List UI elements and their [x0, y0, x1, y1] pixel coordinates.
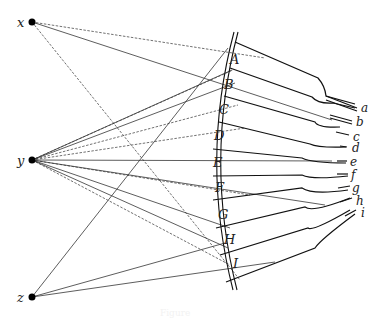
receptor-d: d: [352, 141, 360, 155]
facet-H: H: [223, 232, 236, 247]
facet-I: I: [232, 256, 239, 271]
point-z: [29, 294, 36, 301]
receptor-i: i: [361, 206, 365, 220]
facet-F: F: [214, 180, 225, 195]
receptor-f: f: [350, 168, 358, 182]
facet-labels: A B C D E F G H I: [212, 52, 239, 271]
rays: [32, 22, 332, 297]
facet-G: G: [218, 207, 228, 222]
figure-caption: Figure: [160, 308, 190, 318]
receptor-a: a: [361, 101, 368, 115]
receptor-labels: a b c d e f g h i: [350, 101, 368, 220]
source-points: x y z: [16, 15, 36, 305]
facet-D: D: [213, 128, 225, 143]
receptor-b: b: [356, 115, 364, 129]
facet-E: E: [212, 155, 223, 170]
label-y: y: [16, 153, 25, 168]
facet-C: C: [219, 102, 229, 117]
eye-diagram: x y z A B C D E F G H I a b c d e f g h …: [0, 0, 380, 319]
facet-B: B: [223, 77, 234, 92]
facet-A: A: [229, 52, 239, 67]
label-x: x: [17, 15, 25, 30]
label-z: z: [16, 290, 24, 305]
point-x: [29, 19, 36, 26]
point-y: [29, 157, 36, 164]
receptor-g: g: [352, 181, 360, 195]
receptor-e: e: [350, 155, 357, 169]
